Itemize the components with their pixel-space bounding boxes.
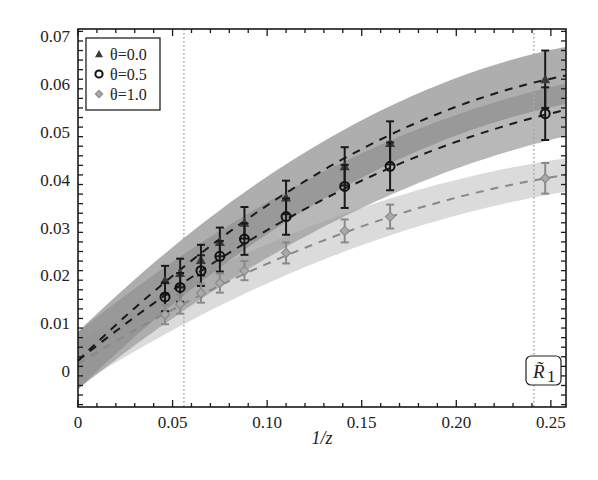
y-tick-label: 0.02	[40, 266, 70, 285]
y-tick-label: 0.03	[40, 219, 70, 238]
x-tick-label: 0.20	[441, 413, 471, 432]
annotation-subscript: 1	[547, 367, 556, 386]
x-tick-label: 0	[74, 413, 83, 432]
y-tick-label: 0.01	[40, 314, 70, 333]
x-tick-label: 0.15	[347, 413, 377, 432]
x-axis-title: 1/z	[311, 428, 332, 448]
y-tick-label: 0.06	[40, 75, 70, 94]
y-tick-label: 0	[62, 362, 71, 381]
x-tick-label: 0.05	[158, 413, 188, 432]
x-tick-label: 0.10	[252, 413, 282, 432]
legend-label: θ=0.0	[110, 46, 147, 63]
x-tick-label: 0.25	[536, 413, 566, 432]
legend: θ=0.0θ=0.5θ=1.0	[86, 38, 160, 110]
annotation-label: R̃	[532, 361, 545, 382]
y-tick-label: 0.04	[40, 171, 70, 190]
legend-label: θ=0.5	[110, 66, 147, 83]
annotation-r1: R̃ 1	[526, 356, 561, 386]
legend-label: θ=1.0	[110, 86, 147, 103]
y-tick-label: 0.07	[40, 27, 70, 46]
y-tick-label: 0.05	[40, 123, 70, 142]
chart: 00.050.100.150.200.25 00.010.020.030.040…	[0, 0, 598, 480]
